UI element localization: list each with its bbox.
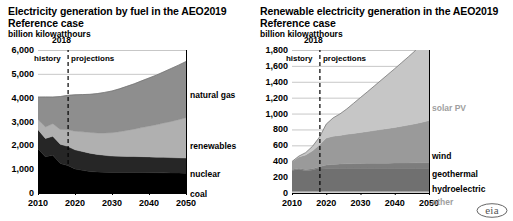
projections-label-left: projections <box>71 55 114 63</box>
eia-logo: eia <box>476 203 508 218</box>
y-tick-label: 1,600 <box>265 61 288 70</box>
y-tick-label: 1,000 <box>265 109 288 118</box>
series-label-natural-gas: natural gas <box>190 91 235 100</box>
x-tick-label: 2010 <box>28 199 48 208</box>
y-axis-labels-right: 02004006008001,0001,2001,4001,6001,800 <box>256 50 288 193</box>
y-tick-label: 400 <box>273 157 288 166</box>
eia-chart-figure: Electricity generation by fuel in the AE… <box>0 0 513 221</box>
y-tick-label: 3,000 <box>11 117 34 126</box>
x-tick-label: 2040 <box>139 199 159 208</box>
y-tick-label: 1,400 <box>265 77 288 86</box>
history-label-right: history <box>286 55 313 63</box>
series-label-solar-pv: solar PV <box>432 104 466 113</box>
y-tick-label: 2,000 <box>11 141 34 150</box>
y-tick-label: 0 <box>283 189 288 198</box>
x-tick-label: 2020 <box>65 199 85 208</box>
y-tick-label: 1,800 <box>265 46 288 55</box>
chart-panel-electricity-by-fuel: Electricity generation by fuel in the AE… <box>0 0 256 221</box>
plot-area-right <box>292 50 431 195</box>
plot-area-left <box>38 50 188 195</box>
divider-year-label-left: 2018 <box>52 36 71 44</box>
chart-panel-renewable-generation: Renewable electricity generation in the … <box>256 0 512 221</box>
series-label-wind: wind <box>432 152 451 161</box>
chart-title-right: Renewable electricity generation in the … <box>260 6 504 29</box>
y-axis-labels-left: 01,0002,0003,0004,0005,0006,000 <box>0 50 34 193</box>
x-tick-label: 2040 <box>385 199 405 208</box>
series-label-nuclear: nuclear <box>190 170 220 179</box>
chart-subtitle-right: billion kilowatthours <box>260 30 343 39</box>
y-tick-label: 4,000 <box>11 93 34 102</box>
history-label-left: history <box>34 55 61 63</box>
y-tick-label: 800 <box>273 125 288 134</box>
projections-label-right: projections <box>323 55 366 63</box>
chart-title-left: Electricity generation by fuel in the AE… <box>8 6 252 29</box>
x-tick-label: 2030 <box>102 199 122 208</box>
series-label-coal: coal <box>190 190 207 199</box>
x-axis-labels-left: 20102020203020402050 <box>38 199 186 211</box>
y-tick-label: 5,000 <box>11 69 34 78</box>
x-tick-label: 2050 <box>176 199 196 208</box>
eia-logo-text: eia <box>476 203 508 218</box>
x-tick-label: 2030 <box>350 199 370 208</box>
x-tick-label: 2010 <box>282 199 302 208</box>
y-tick-label: 200 <box>273 173 288 182</box>
series-label-other: other <box>432 198 453 207</box>
x-tick-label: 2020 <box>316 199 336 208</box>
series-label-geothermal: geothermal <box>432 170 478 179</box>
y-tick-label: 600 <box>273 141 288 150</box>
chart-subtitle-left: billion kilowatthours <box>8 30 91 39</box>
series-label-hydroelectric: hydroelectric <box>432 185 485 194</box>
y-tick-label: 6,000 <box>11 46 34 55</box>
series-label-renewables: renewables <box>190 142 236 151</box>
y-tick-label: 0 <box>29 189 34 198</box>
y-tick-label: 1,000 <box>11 165 34 174</box>
y-tick-label: 1,200 <box>265 93 288 102</box>
divider-year-label-right: 2018 <box>304 36 323 44</box>
x-axis-labels-right: 20102020203020402050 <box>292 199 429 211</box>
